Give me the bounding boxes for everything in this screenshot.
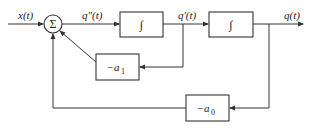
gain-a0-label: −a (197, 102, 210, 114)
gain-a1-subscript: 1 (121, 67, 125, 76)
summer-node: Σ (44, 15, 62, 33)
gain-a0-subscript: 0 (211, 108, 215, 117)
sigma-symbol: Σ (50, 17, 57, 31)
integrator-2: ∫ (209, 12, 253, 37)
gain-a1: −a 1 (96, 54, 139, 80)
second-derivative-edge (62, 22, 120, 27)
output-label: q(t) (284, 9, 300, 22)
integral-symbol-2: ∫ (228, 18, 233, 32)
input-edge (8, 22, 44, 27)
gain-a0: −a 0 (186, 95, 229, 121)
input-label: x(t) (17, 9, 34, 22)
first-derivative-label: q'(t) (178, 9, 197, 22)
second-derivative-label: q"(t) (82, 9, 103, 22)
a1-to-summer-edge (60, 31, 97, 63)
integrator-1: ∫ (120, 12, 163, 37)
first-derivative-edge (163, 22, 209, 27)
integral-symbol-1: ∫ (139, 18, 144, 32)
output-edge (253, 22, 304, 27)
block-diagram: x(t) Σ q"(t) ∫ q'(t) ∫ q(t) −a 1 (0, 0, 311, 130)
gain-a1-label: −a (107, 61, 120, 73)
